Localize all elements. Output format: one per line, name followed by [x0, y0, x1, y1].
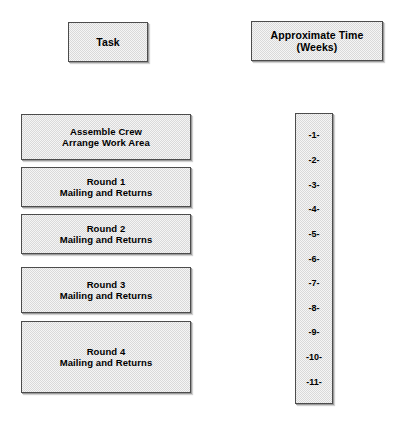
task-box-round-2-line1: Round 2 [60, 223, 153, 234]
diagram-canvas: Task Approximate Time (Weeks) Assemble C… [0, 0, 395, 429]
week-label-11: -11- [296, 369, 332, 394]
column-header-approximate-time: Approximate Time (Weeks) [251, 21, 383, 61]
task-box-round-4[interactable]: Round 4 Mailing and Returns [21, 321, 191, 393]
week-label-4: -4- [296, 197, 332, 222]
task-box-round-1-text: Round 1 Mailing and Returns [60, 176, 153, 198]
week-label-9: -9- [296, 320, 332, 345]
task-box-assemble-crew[interactable]: Assemble Crew Arrange Work Area [21, 114, 191, 160]
week-label-7: -7- [296, 271, 332, 296]
column-header-task-label: Task [96, 36, 120, 48]
week-label-8: -8- [296, 295, 332, 320]
week-label-1: -1- [296, 123, 332, 148]
column-header-task: Task [68, 22, 148, 62]
task-box-round-4-line1: Round 4 [60, 346, 153, 357]
task-box-round-2-text: Round 2 Mailing and Returns [60, 223, 153, 245]
task-box-round-4-text: Round 4 Mailing and Returns [60, 346, 153, 368]
week-label-5: -5- [296, 222, 332, 247]
task-box-round-3[interactable]: Round 3 Mailing and Returns [21, 267, 191, 313]
task-box-round-1-line1: Round 1 [60, 176, 153, 187]
task-box-round-2[interactable]: Round 2 Mailing and Returns [21, 214, 191, 254]
column-header-approximate-time-line2: (Weeks) [270, 41, 363, 53]
task-box-round-3-line1: Round 3 [60, 279, 153, 290]
week-label-6: -6- [296, 246, 332, 271]
task-box-round-1-line2: Mailing and Returns [60, 187, 153, 198]
week-label-2: -2- [296, 148, 332, 173]
weeks-column: -1- -2- -3- -4- -5- -6- -7- -8- -9- -10-… [295, 113, 333, 404]
task-box-round-3-line2: Mailing and Returns [60, 290, 153, 301]
week-label-10: -10- [296, 345, 332, 370]
task-box-assemble-crew-line2: Arrange Work Area [62, 137, 150, 148]
task-box-round-1[interactable]: Round 1 Mailing and Returns [21, 167, 191, 207]
column-header-approximate-time-line1: Approximate Time [270, 29, 363, 41]
task-box-assemble-crew-line1: Assemble Crew [62, 126, 150, 137]
column-header-approximate-time-text: Approximate Time (Weeks) [270, 29, 363, 54]
task-box-round-3-text: Round 3 Mailing and Returns [60, 279, 153, 301]
task-box-assemble-crew-text: Assemble Crew Arrange Work Area [62, 126, 150, 148]
task-box-round-4-line2: Mailing and Returns [60, 357, 153, 368]
week-label-3: -3- [296, 172, 332, 197]
task-box-round-2-line2: Mailing and Returns [60, 234, 153, 245]
